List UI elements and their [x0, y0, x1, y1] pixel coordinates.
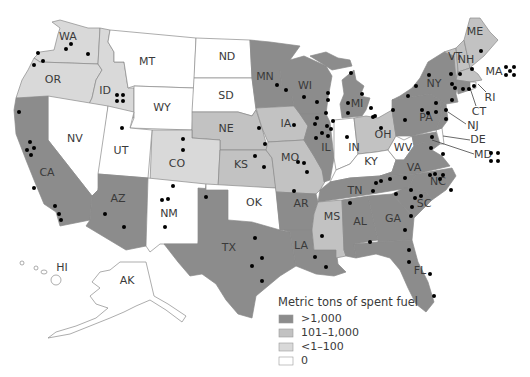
label-al: AL: [353, 215, 368, 228]
label-il: IL: [321, 141, 331, 154]
label-co: CO: [169, 157, 186, 170]
state-mi: [340, 70, 370, 118]
label-nv: NV: [67, 132, 83, 145]
label-ne: NE: [218, 122, 233, 135]
label-tx: TX: [221, 241, 237, 254]
label-mt: MT: [139, 55, 155, 68]
label-nm: NM: [160, 207, 178, 220]
label-ok: OK: [246, 196, 263, 209]
label-id: ID: [99, 84, 111, 97]
legend-swatch-zero: [279, 357, 293, 365]
label-wa: WA: [59, 30, 77, 43]
label-ga: GA: [385, 212, 402, 225]
legend-label-mid: 101–1,000: [301, 326, 359, 339]
spent-fuel-map: WA OR ID MT WY ND SD NE CO KS NV UT CA A…: [0, 0, 530, 377]
label-me: ME: [467, 25, 483, 38]
legend: Metric tons of spent fuel >1,000 101–1,0…: [278, 295, 418, 367]
label-la: LA: [294, 239, 308, 252]
state-ak: [48, 262, 186, 338]
label-wy: WY: [153, 101, 171, 114]
legend-swatch-high: [279, 315, 293, 323]
label-mn: MN: [256, 70, 274, 83]
legend-label-zero: 0: [301, 354, 308, 367]
label-or: OR: [45, 73, 62, 86]
label-wi: WI: [298, 79, 312, 92]
label-ky: KY: [364, 155, 378, 168]
label-oh: OH: [375, 128, 392, 141]
legend-label-low: <1–100: [301, 340, 344, 353]
label-ca: CA: [39, 166, 55, 179]
state-ms: [312, 200, 346, 258]
label-hi: HI: [56, 261, 68, 274]
label-tn: TN: [347, 184, 363, 197]
label-sc: SC: [417, 197, 432, 210]
label-fl: FL: [414, 264, 427, 277]
legend-label-high: >1,000: [301, 312, 342, 325]
label-ut: UT: [114, 144, 129, 157]
label-mi: MI: [351, 97, 364, 110]
label-sd: SD: [218, 89, 233, 102]
label-ak: AK: [120, 274, 136, 287]
label-ar: AR: [293, 197, 309, 210]
label-ny: NY: [427, 77, 442, 90]
label-de: DE: [470, 133, 485, 146]
legend-swatch-low: [279, 343, 293, 351]
label-wv: WV: [394, 141, 413, 154]
label-ia: IA: [281, 117, 292, 130]
label-nh: NH: [458, 53, 475, 66]
label-ks: KS: [234, 158, 248, 171]
label-ri: RI: [485, 91, 496, 104]
label-az: AZ: [110, 192, 126, 205]
legend-title: Metric tons of spent fuel: [278, 295, 418, 309]
label-va: VA: [407, 161, 422, 174]
state-pa: [392, 94, 442, 136]
label-md: MD: [474, 148, 492, 161]
label-ct: CT: [472, 105, 487, 118]
label-in: IN: [348, 141, 359, 154]
state-hi: [20, 261, 61, 285]
label-nd: ND: [219, 50, 236, 63]
legend-swatch-mid: [279, 329, 293, 337]
label-nj: NJ: [467, 119, 478, 132]
label-ms: MS: [324, 210, 340, 223]
label-ma: MA: [485, 65, 502, 78]
label-nc: NC: [430, 175, 446, 188]
